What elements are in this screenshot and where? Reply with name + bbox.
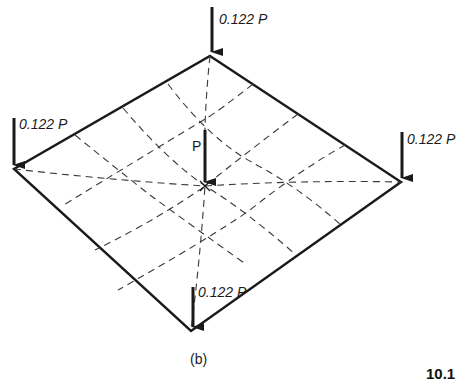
left-load-label: 0.122 P xyxy=(19,117,67,131)
top-load-label: 0.122 P xyxy=(219,12,267,26)
right-load-label: 0.122 P xyxy=(407,132,455,146)
figure-caption: (b) xyxy=(190,352,207,366)
figure-number: 10.1 xyxy=(426,366,455,381)
center-load-label: P xyxy=(192,139,201,153)
load-arrows xyxy=(14,7,402,327)
bottom-load-label: 0.122 P xyxy=(198,285,246,299)
